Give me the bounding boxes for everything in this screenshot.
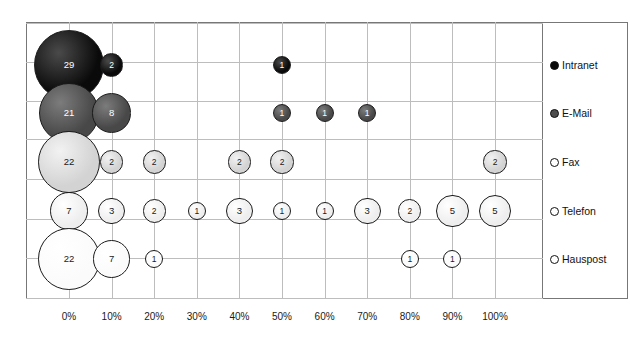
bubble[interactable]: 3 <box>98 198 125 225</box>
legend-item-label: E-Mail <box>562 107 592 119</box>
bubble-value-label: 1 <box>407 255 412 264</box>
bubble-value-label: 22 <box>64 254 75 264</box>
bubble-value-label: 2 <box>152 207 157 216</box>
x-axis-tick-label: 40% <box>229 311 249 322</box>
bubble-value-label: 1 <box>194 207 199 216</box>
legend-item-e-mail[interactable]: E-Mail <box>550 107 592 119</box>
bubble-value-label: 1 <box>152 255 157 264</box>
filled-circle-marker <box>550 109 559 118</box>
bubble[interactable]: 3 <box>226 198 253 225</box>
x-axis-tick-label: 20% <box>144 311 164 322</box>
bubble[interactable]: 2 <box>228 150 251 173</box>
bubble-value-label: 7 <box>109 254 114 264</box>
bubble[interactable]: 2 <box>100 150 123 173</box>
plot-area: 2921218111222222273213113255227111 <box>26 22 543 299</box>
bubble-value-label: 1 <box>450 255 455 264</box>
bubble[interactable]: 1 <box>273 56 291 74</box>
legend-item-hauspost[interactable]: Hauspost <box>550 253 606 265</box>
bubble-value-label: 22 <box>64 157 75 167</box>
hollow-circle-marker <box>550 255 559 264</box>
bubble-value-label: 3 <box>109 206 114 216</box>
bubble[interactable]: 2 <box>483 150 506 173</box>
bubble-value-label: 5 <box>450 206 455 216</box>
hollow-circle-marker <box>550 207 559 216</box>
bubble-value-label: 2 <box>109 61 114 70</box>
x-axis-tick-label: 10% <box>102 311 122 322</box>
hollow-circle-marker <box>550 158 559 167</box>
legend-item-label: Telefon <box>562 205 596 217</box>
legend-item-label: Hauspost <box>562 253 606 265</box>
bubble[interactable]: 1 <box>316 202 334 220</box>
horizontal-gridline <box>26 298 543 299</box>
legend-item-intranet[interactable]: Intranet <box>550 59 598 71</box>
bubble-value-label: 2 <box>280 158 285 167</box>
legend-item-telefon[interactable]: Telefon <box>550 205 596 217</box>
bubble-value-label: 2 <box>109 158 114 167</box>
filled-circle-marker <box>550 61 559 70</box>
x-axis-tick-label: 90% <box>442 311 462 322</box>
bubble-value-label: 29 <box>64 60 75 70</box>
bubble[interactable]: 7 <box>50 192 88 230</box>
bubble-value-label: 3 <box>237 206 242 216</box>
x-axis-tick-label: 50% <box>272 311 292 322</box>
legend-item-fax[interactable]: Fax <box>550 156 580 168</box>
bubble[interactable]: 22 <box>38 228 100 290</box>
x-axis-tick-label: 70% <box>357 311 377 322</box>
x-axis-tick-label: 100% <box>482 311 508 322</box>
bubble[interactable]: 2 <box>143 199 166 222</box>
bubble[interactable]: 2 <box>398 199 421 222</box>
bubble[interactable]: 1 <box>401 250 419 268</box>
bubble[interactable]: 5 <box>436 195 469 228</box>
bubble-value-label: 21 <box>64 108 75 118</box>
bubble-value-label: 1 <box>280 207 285 216</box>
bubble-chart: 2921218111222222273213113255227111 0%10%… <box>0 0 628 351</box>
bubble-value-label: 2 <box>152 158 157 167</box>
legend-item-label: Fax <box>562 156 580 168</box>
bubble[interactable]: 2 <box>270 150 293 173</box>
legend-item-label: Intranet <box>562 59 598 71</box>
bubble[interactable]: 7 <box>93 240 131 278</box>
bubble-value-label: 3 <box>365 206 370 216</box>
bubble-value-label: 8 <box>109 108 114 118</box>
chart-legend: IntranetE-MailFaxTelefonHauspost <box>543 22 628 299</box>
bubble[interactable]: 5 <box>479 195 512 228</box>
bubble[interactable]: 1 <box>145 250 163 268</box>
horizontal-gridline <box>26 23 543 24</box>
x-axis-tick-label: 80% <box>400 311 420 322</box>
bubble[interactable]: 2 <box>143 150 166 173</box>
bubble[interactable]: 1 <box>358 104 376 122</box>
bubble-value-label: 1 <box>365 109 370 118</box>
bubble-value-label: 1 <box>280 61 285 70</box>
horizontal-gridline <box>26 179 543 180</box>
bubble[interactable]: 3 <box>354 198 381 225</box>
bubble-value-label: 1 <box>322 207 327 216</box>
bubble[interactable]: 22 <box>38 131 100 193</box>
bubble[interactable]: 1 <box>443 250 461 268</box>
bubble-value-label: 5 <box>492 206 497 216</box>
bubble-value-label: 1 <box>280 109 285 118</box>
bubble[interactable]: 1 <box>273 202 291 220</box>
x-axis-tick-label: 30% <box>187 311 207 322</box>
bubble[interactable]: 8 <box>92 93 132 133</box>
x-axis-tick-label: 0% <box>62 311 76 322</box>
bubble-value-label: 7 <box>66 206 71 216</box>
bubble-value-label: 2 <box>407 207 412 216</box>
bubble[interactable]: 2 <box>100 53 123 76</box>
bubble[interactable]: 1 <box>273 104 291 122</box>
bubble[interactable]: 1 <box>316 104 334 122</box>
bubble-value-label: 2 <box>237 158 242 167</box>
bubble[interactable]: 1 <box>188 202 206 220</box>
x-axis-tick-label: 60% <box>315 311 335 322</box>
bubble-value-label: 2 <box>493 158 498 167</box>
horizontal-gridline <box>26 139 543 140</box>
bubble-value-label: 1 <box>322 109 327 118</box>
